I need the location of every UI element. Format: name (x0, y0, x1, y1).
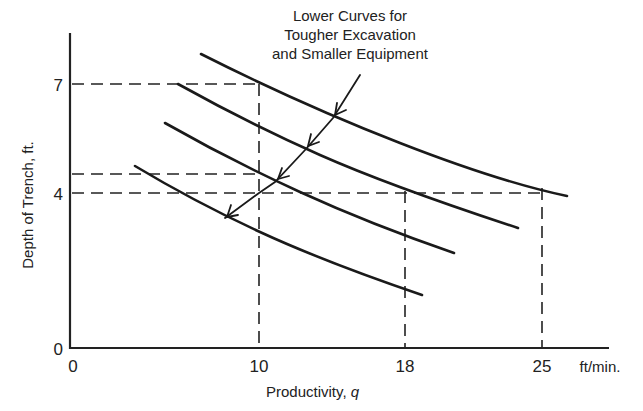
y-tick-7: 7 (54, 76, 63, 95)
x-tick-10: 10 (250, 357, 269, 376)
svg-text:Tougher Excavation: Tougher Excavation (284, 26, 416, 43)
curve-4 (135, 166, 422, 295)
x-tick-18: 18 (396, 357, 415, 376)
svg-text:Lower Curves for: Lower Curves for (293, 7, 407, 24)
x-axis-title: Productivity, q (266, 383, 360, 400)
x-tick-0: 0 (68, 357, 77, 376)
curve-2 (178, 84, 518, 228)
annotation-text: Lower Curves for Tougher Excavation and … (272, 7, 429, 62)
axes (70, 33, 609, 349)
x-unit: ft/min. (580, 358, 621, 375)
svg-text:and Smaller Equipment: and Smaller Equipment (272, 45, 429, 62)
y-tick-0: 0 (54, 340, 63, 359)
chart: Lower Curves for Tougher Excavation and … (0, 0, 643, 411)
y-axis-title: Depth of Trench, ft. (19, 141, 36, 269)
x-ticks: 0 10 18 25 ft/min. (68, 357, 620, 376)
x-tick-25: 25 (533, 357, 552, 376)
y-ticks: 7 4 0 (54, 76, 63, 359)
y-tick-4: 4 (54, 185, 63, 204)
reference-lines (72, 84, 542, 348)
